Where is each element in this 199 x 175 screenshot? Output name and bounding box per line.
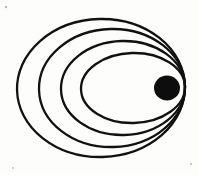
orbit-diagram-canvas	[0, 0, 199, 175]
scan-speck	[190, 163, 192, 165]
central-body-circle	[154, 76, 180, 101]
scan-speck	[5, 6, 7, 8]
scan-speck	[12, 167, 14, 169]
orbit-diagram-figure: Nested elliptical orbits sharing a commo…	[0, 0, 199, 175]
